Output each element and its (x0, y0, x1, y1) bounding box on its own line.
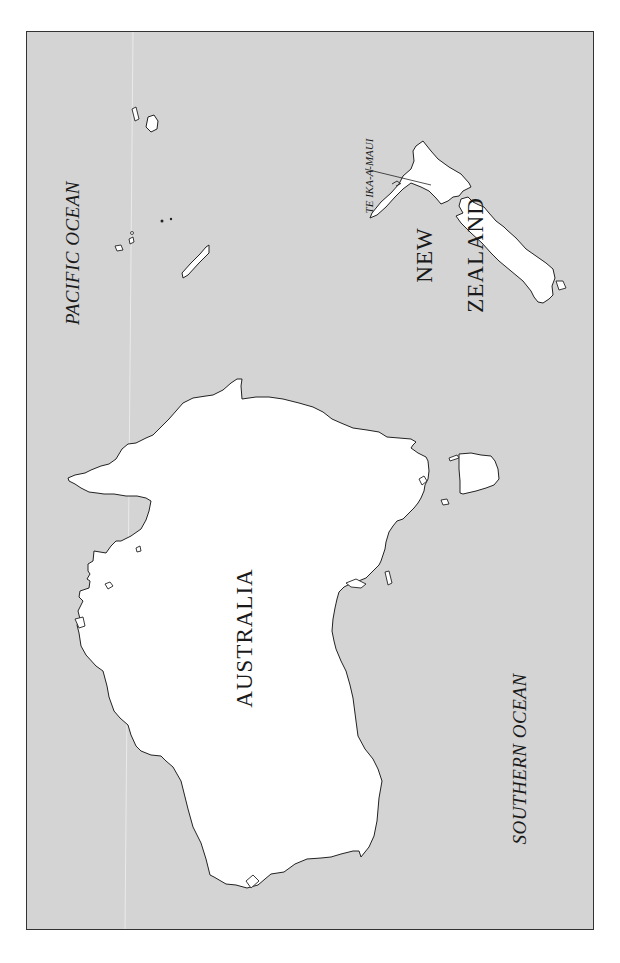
pacific-island-large (146, 115, 158, 132)
pacific-islet-1 (131, 232, 134, 235)
pacific-islet-2 (161, 220, 164, 223)
tasmania (459, 453, 499, 494)
north-coast-island-2 (75, 617, 85, 628)
new-caledonia (182, 245, 209, 278)
map-frame: PACIFIC OCEAN SOUTHERN OCEAN AUSTRALIA T… (26, 31, 594, 930)
pacific-island-small-3 (129, 237, 134, 244)
pacific-island-small-2 (115, 245, 123, 251)
new-zealand-north-island (370, 141, 471, 218)
new-zealand-label-line1: NEW (412, 220, 438, 290)
tasmania-islet (449, 455, 459, 461)
new-zealand-label-line2: ZEALAND (463, 195, 489, 315)
te-ika-a-maui-label: TE IKA-A-MAUI (363, 126, 375, 226)
pacific-islet-3 (170, 218, 172, 220)
stewart-island (556, 281, 566, 290)
australia-label: AUSTRALIA (232, 568, 258, 708)
southern-ocean-label: SOUTHERN OCEAN (509, 669, 531, 849)
port-phillip-island (385, 571, 392, 585)
east-coast-island (441, 499, 449, 505)
pacific-island-small-1 (132, 107, 139, 121)
pacific-ocean-label: PACIFIC OCEAN (62, 178, 84, 328)
